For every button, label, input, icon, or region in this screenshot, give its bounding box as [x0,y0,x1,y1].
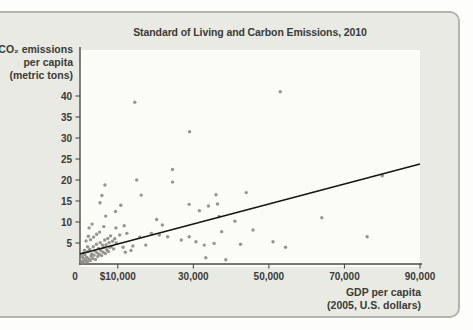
data-point [239,243,242,246]
data-point [129,249,132,252]
data-point [187,235,190,238]
plot-area [80,50,420,267]
y-axis-title-line: (metric tons) [9,69,73,81]
data-point [284,246,287,249]
data-point [198,209,201,212]
data-point [279,90,282,93]
data-point [111,240,114,243]
data-point [92,235,95,238]
data-point [114,226,117,229]
data-point [107,250,110,253]
data-point [99,241,102,244]
y-tick-label: 25 [61,154,73,165]
data-point [203,243,206,246]
y-tick-label: 5 [66,238,72,249]
data-point [83,248,86,251]
data-point [233,219,236,222]
y-tick-label: 30 [61,133,73,144]
data-point [214,193,217,196]
x-tick-label: $10,000 [100,271,137,282]
data-point [166,235,169,238]
data-point [84,239,87,242]
data-point [81,255,84,258]
data-point [123,224,126,227]
data-point [104,243,107,246]
data-point [95,232,98,235]
data-point [106,237,109,240]
data-point [125,232,128,235]
data-point [114,210,117,213]
data-point [131,244,134,247]
data-point [87,226,90,229]
scatter-chart: 5101520253035400$10,00030,00050,00070,00… [0,0,473,330]
data-point [251,228,254,231]
data-point [320,216,323,219]
data-point [194,240,197,243]
y-axis-title-line: per capita [23,56,73,68]
x-tick-label: 50,000 [254,271,285,282]
data-point [121,246,124,249]
data-point [207,204,210,207]
x-tick-label: 0 [72,271,78,282]
data-point [180,238,183,241]
data-point [271,240,274,243]
data-point [216,202,219,205]
data-point [90,222,93,225]
data-point [87,235,90,238]
x-tick-label: 90,000 [405,271,436,282]
data-point [212,242,215,245]
y-axis-title-line: CO₂ emissions [0,43,73,55]
data-point [140,193,143,196]
data-point [104,252,107,255]
x-tick-label: 70,000 [329,271,360,282]
data-point [98,201,101,204]
x-axis-title-line: GDP per capita [346,286,421,298]
data-point [94,258,97,261]
y-tick-label: 15 [61,196,73,207]
data-point [104,214,107,217]
data-point [113,237,116,240]
data-point [188,130,191,133]
data-point [365,235,368,238]
data-point [89,238,92,241]
data-point [103,183,106,186]
data-point [112,247,115,250]
data-point [144,243,147,246]
data-point [119,204,122,207]
data-point [92,253,95,256]
y-tick-label: 20 [61,175,73,186]
data-point [161,223,164,226]
x-tick-label: 30,000 [178,271,209,282]
data-point [98,230,101,233]
data-point [135,178,138,181]
data-point [95,243,98,246]
data-point [107,241,110,244]
data-point [171,168,174,171]
data-point [103,238,106,241]
data-point [124,251,127,254]
data-point [133,101,136,104]
data-point [187,203,190,206]
data-point [86,245,89,248]
data-point [92,245,95,248]
chart-title: Standard of Living and Carbon Emissions,… [80,26,420,38]
data-point [118,233,121,236]
data-point [100,194,103,197]
data-point [171,180,174,183]
y-tick-label: 10 [61,217,73,228]
data-point [91,257,94,260]
data-point [100,254,103,257]
data-point [109,234,112,237]
data-point [155,218,158,221]
data-point [220,230,223,233]
data-point [204,256,207,259]
data-point [224,258,227,261]
y-tick-label: 40 [61,91,73,102]
x-axis-title-line: (2005, U.S. dollars) [327,299,421,311]
data-point [245,191,248,194]
y-tick-label: 35 [61,112,73,123]
data-point [102,225,105,228]
